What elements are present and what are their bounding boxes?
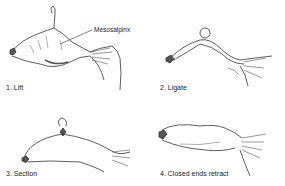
tubal-ligation-illustration: [0, 0, 285, 186]
panel-4-drawing: [159, 125, 266, 176]
panel-3-drawing: [22, 118, 130, 172]
panel-1-drawing: [10, 6, 121, 90]
panel-4-label: 4. Closed ends retract: [160, 170, 228, 177]
panel-2-drawing: [166, 28, 272, 86]
panel-2-label: 2. Ligate: [160, 84, 187, 91]
mesosalpinx-callout: Mesosalpinx: [94, 26, 130, 33]
diagram-canvas: Mesosalpinx 1. Lift 2. Ligate 3. Section…: [0, 0, 285, 186]
panel-3-label: 3. Section: [6, 170, 37, 177]
panel-1-label: 1. Lift: [6, 84, 23, 91]
